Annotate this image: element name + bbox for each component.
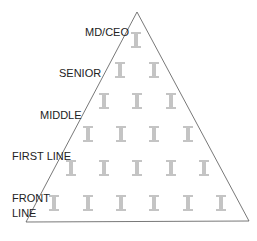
person-icon <box>116 126 126 142</box>
person-icon <box>116 195 126 211</box>
person-icon <box>83 195 93 211</box>
label-front-line-2: LINE <box>12 207 36 220</box>
label-md-ceo: MD/CEO <box>85 26 129 39</box>
person-icon <box>149 195 159 211</box>
label-middle: MIDDLE <box>40 109 82 122</box>
person-icon <box>99 160 109 176</box>
person-icon <box>149 62 159 78</box>
person-icon <box>216 195 226 211</box>
person-icon <box>83 126 93 142</box>
person-icon <box>166 160 176 176</box>
person-icon <box>115 62 125 78</box>
label-first-line: FIRST LINE <box>12 150 71 163</box>
label-senior: SENIOR <box>59 67 101 80</box>
person-icon <box>49 195 59 211</box>
label-front-line-1: FRONT <box>12 192 50 205</box>
person-icon <box>199 160 209 176</box>
person-icon <box>132 160 142 176</box>
person-icon <box>132 93 142 109</box>
person-icon <box>131 32 141 48</box>
person-icon <box>99 93 109 109</box>
person-icon <box>149 126 159 142</box>
person-icon <box>183 195 193 211</box>
person-icon <box>183 126 193 142</box>
person-icon <box>166 93 176 109</box>
